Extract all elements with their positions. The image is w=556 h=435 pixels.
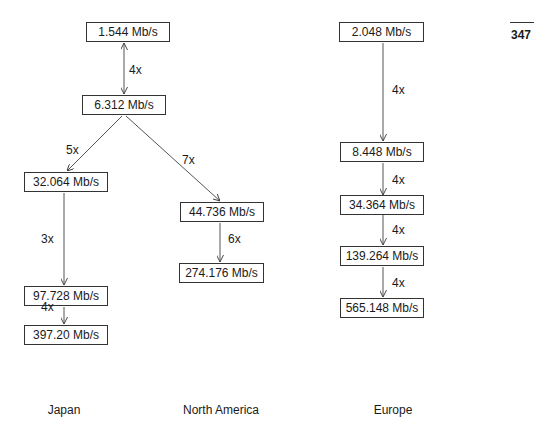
edge-label-6312-32064: 5x bbox=[66, 143, 79, 157]
page-number: 347 bbox=[511, 28, 531, 42]
edge-label-139264-565148: 4x bbox=[392, 276, 405, 290]
node-139-264: 139.264 Mb/s bbox=[340, 246, 424, 266]
edge-6312-44736 bbox=[126, 116, 220, 201]
edge-label-34364-139264: 4x bbox=[392, 223, 405, 237]
node-8-448: 8.448 Mb/s bbox=[340, 142, 424, 162]
edge-label-6312-44736: 7x bbox=[182, 153, 195, 167]
page-number-rule bbox=[510, 22, 534, 23]
node-2-048: 2.048 Mb/s bbox=[339, 22, 424, 42]
edge-label-44736-274176: 6x bbox=[228, 232, 241, 246]
node-565-148: 565.148 Mb/s bbox=[340, 298, 424, 318]
region-label-europe: Europe bbox=[333, 403, 453, 417]
edge-label-1544-6312: 4x bbox=[129, 63, 142, 77]
edge-label-8448-34364: 4x bbox=[392, 173, 405, 187]
node-32-064: 32.064 Mb/s bbox=[24, 172, 108, 192]
edge-label-97728-39720: 4x bbox=[41, 300, 54, 314]
node-397-20: 397.20 Mb/s bbox=[24, 325, 108, 345]
node-6-312: 6.312 Mb/s bbox=[82, 95, 166, 115]
edge-label-2048-8448: 4x bbox=[392, 83, 405, 97]
connector-layer bbox=[0, 0, 556, 435]
node-34-364: 34.364 Mb/s bbox=[340, 195, 424, 215]
region-label-japan: Japan bbox=[4, 403, 124, 417]
node-44-736: 44.736 Mb/s bbox=[180, 202, 264, 222]
node-97-728: 97.728 Mb/s bbox=[24, 286, 108, 306]
node-274-176: 274.176 Mb/s bbox=[179, 263, 264, 283]
region-label-north-america: North America bbox=[161, 403, 281, 417]
node-1-544: 1.544 Mb/s bbox=[86, 22, 170, 42]
edge-label-32064-97728: 3x bbox=[41, 232, 54, 246]
